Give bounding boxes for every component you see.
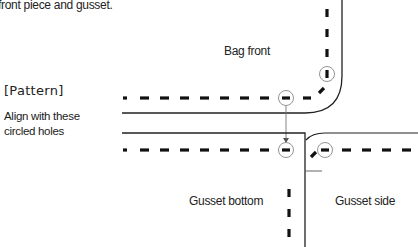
gusset-side-stitch (311, 150, 411, 157)
gusset-bottom-outline (122, 133, 305, 247)
bag-front-stitch-horizontal (123, 88, 324, 98)
gusset-side-piece (306, 133, 418, 171)
gusset-side-outline (306, 133, 418, 140)
label-gusset-bottom: Gusset bottom (189, 194, 263, 208)
gusset-bottom-piece (122, 133, 305, 247)
label-gusset-side: Gusset side (335, 194, 395, 208)
alignment-arrow (283, 106, 289, 143)
label-bag-front: Bag front (224, 44, 270, 58)
pattern-diagram (0, 0, 418, 247)
